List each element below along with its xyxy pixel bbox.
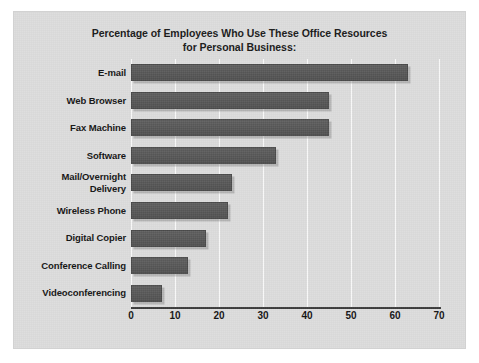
bar-chart-figure: Percentage of Employees Who Use These Of…: [14, 12, 465, 348]
x-tick-label-20: 20: [213, 310, 224, 321]
category-label-row: Fax Machine: [22, 114, 126, 142]
bar-band: [131, 59, 439, 87]
bar-band: [131, 224, 439, 252]
category-label: E-mail: [98, 67, 126, 79]
bar-band: [131, 114, 439, 142]
category-label: Software: [87, 150, 126, 162]
bar[interactable]: [131, 119, 329, 136]
category-label: Digital Copier: [66, 232, 126, 244]
chart-title-line-1: Percentage of Employees Who Use These Of…: [92, 27, 387, 39]
bar-band: [131, 279, 439, 307]
category-label-row: Conference Calling: [22, 252, 126, 280]
bars-layer: [131, 59, 439, 307]
bar[interactable]: [131, 285, 162, 302]
category-label-row: Web Browser: [22, 87, 126, 115]
bar[interactable]: [131, 64, 408, 81]
x-tick-label-40: 40: [301, 310, 312, 321]
bar-band: [131, 142, 439, 170]
bar-band: [131, 169, 439, 197]
gridline-70: [439, 59, 440, 307]
x-tick-label-60: 60: [389, 310, 400, 321]
category-label-row: Software: [22, 142, 126, 170]
category-label: Fax Machine: [70, 122, 126, 134]
bar[interactable]: [131, 230, 206, 247]
category-label-row: Mail/Overnight Delivery: [22, 169, 126, 197]
bar-band: [131, 87, 439, 115]
x-tick-label-50: 50: [345, 310, 356, 321]
bar[interactable]: [131, 147, 276, 164]
category-label-row: Videoconferencing: [22, 279, 126, 307]
bar-band: [131, 197, 439, 225]
category-label-row: E-mail: [22, 59, 126, 87]
category-label-row: Wireless Phone: [22, 197, 126, 225]
category-label: Web Browser: [67, 95, 126, 107]
x-tick-label-30: 30: [257, 310, 268, 321]
bar-band: [131, 252, 439, 280]
category-label: Conference Calling: [41, 260, 126, 272]
category-axis-labels: E-mailWeb BrowserFax MachineSoftwareMail…: [22, 59, 126, 307]
chart-title-line-2: for Personal Business:: [14, 40, 465, 54]
category-label-row: Digital Copier: [22, 224, 126, 252]
chart-title: Percentage of Employees Who Use These Of…: [14, 26, 465, 54]
bar[interactable]: [131, 174, 232, 191]
bar[interactable]: [131, 92, 329, 109]
x-tick-label-10: 10: [169, 310, 180, 321]
bar[interactable]: [131, 202, 228, 219]
x-axis-line: [131, 307, 441, 309]
x-tick-label-70: 70: [433, 310, 444, 321]
category-label: Mail/Overnight Delivery: [61, 171, 126, 194]
x-tick-label-0: 0: [128, 310, 134, 321]
bar[interactable]: [131, 257, 188, 274]
x-axis-tick-labels: 010203040506070: [131, 310, 439, 326]
plot-area: [131, 59, 439, 307]
category-label: Videoconferencing: [42, 287, 126, 299]
category-label: Wireless Phone: [57, 205, 126, 217]
